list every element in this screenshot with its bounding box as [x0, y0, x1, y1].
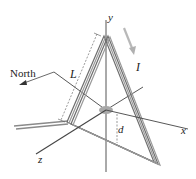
north-label: North	[10, 67, 36, 79]
triangle-loop-diagram: North y x z L I d	[0, 0, 196, 179]
z-axis-front	[36, 110, 106, 154]
lead-wires	[14, 121, 68, 129]
triangle-coil	[67, 36, 160, 165]
current-arrow	[124, 28, 136, 55]
length-label: L	[69, 67, 77, 81]
distance-label: d	[118, 123, 124, 135]
x-axis-label: x	[180, 124, 186, 136]
current-label: I	[135, 60, 141, 74]
y-axis-label: y	[107, 11, 113, 23]
arrowhead-icon	[19, 80, 27, 85]
z-axis-label: z	[37, 153, 43, 165]
